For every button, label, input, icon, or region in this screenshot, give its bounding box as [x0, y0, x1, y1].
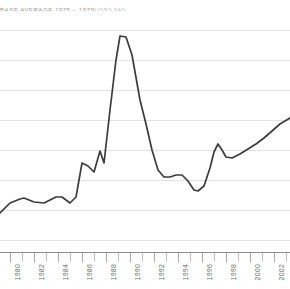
axis-tick-20	[250, 253, 251, 262]
axis-tick-9	[118, 253, 119, 261]
series-line	[0, 36, 290, 213]
axis-tick-2	[34, 253, 35, 262]
axis-tick-0	[10, 253, 11, 262]
axis-tick-16	[202, 253, 203, 262]
axis-tick-12	[154, 253, 155, 262]
x-axis: 1980198219841986198819901992199419961998…	[0, 252, 290, 289]
axis-tick-18	[226, 253, 227, 262]
x-axis-label-1994: 1994	[182, 264, 189, 280]
x-axis-label-1992: 1992	[158, 264, 165, 280]
x-axis-label-1990: 1990	[134, 264, 141, 280]
plot-area	[0, 0, 290, 252]
axis-tick-5	[70, 253, 71, 261]
x-axis-label-2002: 2002	[278, 264, 285, 280]
axis-tick-1	[22, 253, 23, 261]
axis-tick-21	[262, 253, 263, 261]
x-axis-label-1982: 1982	[38, 264, 45, 280]
line-series	[0, 0, 290, 252]
x-axis-label-1986: 1986	[86, 264, 93, 280]
axis-tick-4	[58, 253, 59, 262]
x-axis-label-1984: 1984	[62, 264, 69, 280]
axis-tick-22	[274, 253, 275, 262]
x-axis-label-1980: 1980	[14, 264, 21, 280]
axis-tick-13	[166, 253, 167, 261]
axis-tick-3	[46, 253, 47, 261]
axis-tick-23	[286, 253, 287, 261]
axis-tick-10	[130, 253, 131, 262]
chart-page: BASE AVERAGE 1975 – 1979US$3,040 1980198…	[0, 0, 290, 289]
x-axis-label-2000: 2000	[254, 264, 261, 280]
axis-tick-6	[82, 253, 83, 262]
axis-tick-8	[106, 253, 107, 262]
axis-tick-14	[178, 253, 179, 262]
x-axis-line	[0, 252, 290, 253]
axis-tick-7	[94, 253, 95, 261]
x-axis-label-1988: 1988	[110, 264, 117, 280]
x-axis-label-1998: 1998	[230, 264, 237, 280]
axis-tick-11	[142, 253, 143, 261]
x-axis-label-1996: 1996	[206, 264, 213, 280]
axis-tick-19	[238, 253, 239, 261]
axis-tick-17	[214, 253, 215, 261]
axis-tick-15	[190, 253, 191, 261]
